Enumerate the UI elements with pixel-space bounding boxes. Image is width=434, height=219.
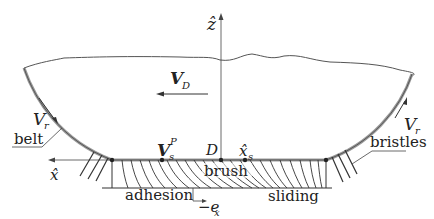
x-axis-arrowhead: [48, 158, 55, 163]
vr-right-arrowhead: [403, 97, 407, 105]
vsp-subscript: s: [169, 151, 174, 162]
belt-label: belt: [14, 130, 43, 148]
vd-arrowhead: [156, 92, 164, 97]
vd-subscript: D: [181, 80, 190, 91]
ex-subscript: x: [214, 207, 220, 218]
point-D-label: D: [205, 141, 218, 159]
brush-label: brush: [204, 162, 248, 180]
z-axis-arrowhead: [219, 13, 224, 20]
leading-edge-point: [110, 158, 114, 162]
z-axis-label: ẑ: [206, 14, 217, 34]
brush-model-diagram: ẑ x̂ V D V r V r belt bristles V s P D x…: [0, 0, 434, 219]
bristles-label: bristles: [370, 133, 427, 151]
vr-left-subscript: r: [44, 120, 50, 131]
vsp-superscript: P: [169, 136, 177, 147]
adhesion-label: adhesion: [125, 186, 194, 204]
sliding-label: sliding: [268, 187, 319, 205]
xs-label: x̂: [239, 142, 248, 160]
x-axis-label: x̂: [50, 166, 59, 184]
tire-top-outline: [24, 54, 414, 76]
xs-subscript: s: [248, 151, 253, 162]
trailing-edge-point: [324, 158, 328, 162]
bristles-leader: [352, 151, 406, 164]
